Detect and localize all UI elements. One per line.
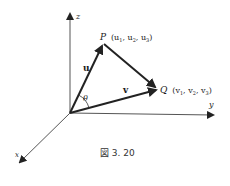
point-p-label: P (u1, u2, u3) xyxy=(99,32,152,43)
y-axis-label: y xyxy=(208,100,214,109)
x-axis xyxy=(20,113,70,162)
point-q-label: Q (v1, v2, v3) xyxy=(160,85,212,96)
y-axis xyxy=(70,113,213,115)
z-axis-label: z xyxy=(75,12,81,21)
vector-v-label: v xyxy=(122,85,129,95)
figure-caption: 図 3. 20 xyxy=(100,148,135,158)
vector-pq xyxy=(104,44,155,87)
vector-diagram: z y x u v θ P (u1, u2, u3) Q (v1, v2, v3… xyxy=(0,0,230,186)
x-axis-label: x xyxy=(15,151,19,159)
angle-theta-label: θ xyxy=(83,94,88,103)
vector-u-label: u xyxy=(83,63,90,73)
